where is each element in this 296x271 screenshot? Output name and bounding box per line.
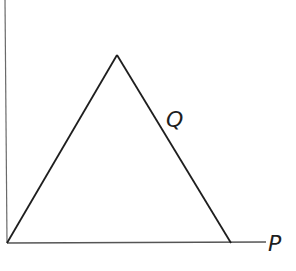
label-p: P — [268, 231, 282, 256]
y-axis — [5, 0, 7, 243]
x-axis — [7, 242, 266, 243]
triangle-right-side-q — [117, 55, 231, 243]
triangle-diagram: Q P — [0, 0, 296, 271]
label-q: Q — [166, 107, 183, 132]
triangle-left-side — [7, 55, 117, 243]
